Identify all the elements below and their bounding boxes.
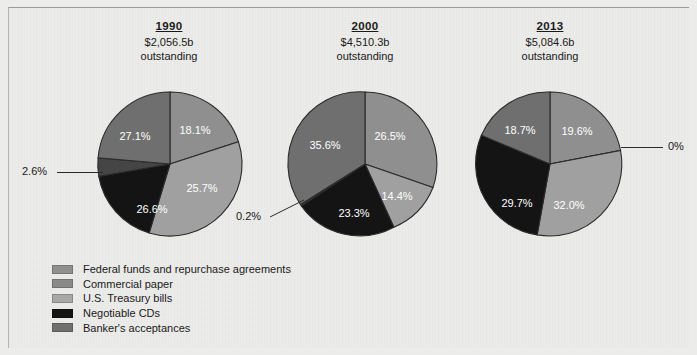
slice-value-negotiable-cds: 29.7% [501,197,532,209]
legend-swatch-icon [52,323,73,332]
pie-header-2013: 2013 $5,084.6b outstanding [450,20,650,63]
pie-amount-label: $5,084.6b [450,35,650,49]
pie-outstanding-label: outstanding [69,49,269,63]
pie-header-1990: 1990 $2,056.5b outstanding [69,20,269,63]
pie-slices-1990 [98,92,242,236]
callout-value-commercial-paper-2013: 0% [668,140,684,152]
legend-swatch-icon [52,265,73,274]
slice-value-federal-funds: 26.5% [374,130,405,142]
pie-year-label: 1990 [69,20,269,32]
pie-amount-label: $2,056.5b [69,35,269,49]
legend-item-negotiable-cds: Negotiable CDs [52,306,291,321]
legend-item-federal-funds: Federal funds and repurchase agreements [52,262,291,277]
legend-item-label: Banker's acceptances [83,322,190,334]
pie-svg-1990: 18.1% 25.7% 26.6% 27.1% [97,89,243,239]
money-market-instruments-figure: 1990 $2,056.5b outstanding 18.1% 25.7% 2… [0,0,697,355]
legend-item-commercial-paper: Commercial paper [52,277,291,292]
slice-value-treasury-bills: 32.0% [553,199,584,211]
callout-leader-2000 [268,195,314,223]
callout-leader-line-1990 [57,172,103,173]
pie-year-label: 2000 [265,20,465,32]
legend-item-label: Negotiable CDs [83,307,160,319]
slice-value-negotiable-cds: 23.3% [338,207,369,219]
pie-outstanding-label: outstanding [265,49,465,63]
pie-outstanding-label: outstanding [450,49,650,63]
slice-value-commercial-paper: 14.4% [381,190,412,202]
pie-svg-2013: 19.6% 32.0% 29.7% 18.7% [477,89,623,239]
pie-year-label: 2013 [450,20,650,32]
legend-swatch-icon [52,279,73,288]
callout-leader-line-2000 [270,200,304,217]
legend-item-treasury-bills: U.S. Treasury bills [52,291,291,306]
slice-bankers-acceptances [98,92,170,164]
callout-value-treasury-bills-1990: 2.6% [22,165,47,177]
legend-item-bankers-acceptances: Banker's acceptances [52,320,291,335]
legend-swatch-icon [52,309,73,318]
slice-value-bankers-acceptances: 18.7% [504,124,535,136]
pie-slices-2013 [476,92,622,236]
pie-amount-label: $4,510.3b [265,35,465,49]
callout-leader-line-2013 [621,147,663,148]
pie-header-2000: 2000 $4,510.3b outstanding [265,20,465,63]
legend: Federal funds and repurchase agreements … [52,262,291,335]
slice-value-commercial-paper: 25.7% [186,182,217,194]
slice-value-bankers-acceptances: 35.6% [309,139,340,151]
slice-value-negotiable-cds: 26.6% [136,203,167,215]
slice-value-federal-funds: 18.1% [179,124,210,136]
callout-value-treasury-bills-2000: 0.2% [236,210,261,222]
slice-value-federal-funds: 19.6% [561,125,592,137]
legend-item-label: U.S. Treasury bills [83,292,172,304]
legend-swatch-icon [52,294,73,303]
slice-value-bankers-acceptances: 27.1% [119,130,150,142]
legend-item-label: Commercial paper [83,278,173,290]
legend-item-label: Federal funds and repurchase agreements [83,263,291,275]
